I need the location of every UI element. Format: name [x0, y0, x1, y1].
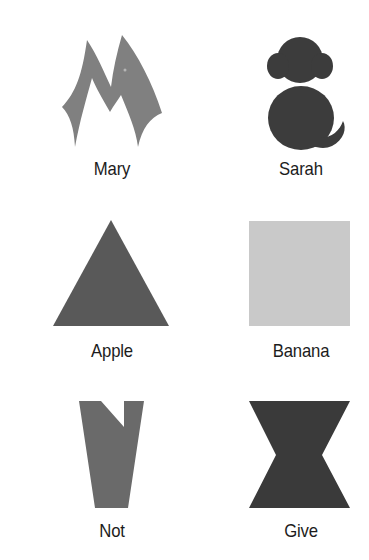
label-give: Give — [239, 520, 362, 542]
hourglass-icon — [0, 0, 369, 560]
